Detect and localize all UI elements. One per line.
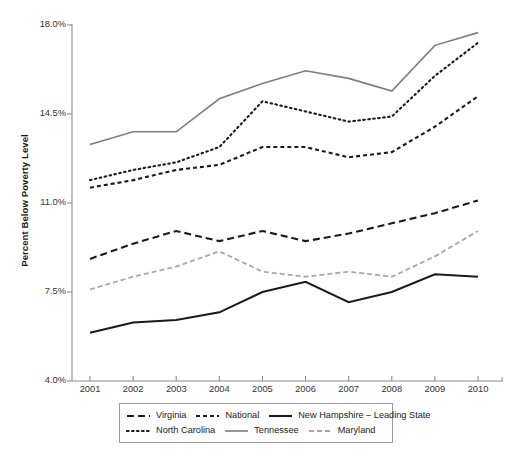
- legend-row-2: North CarolinaTennesseeMaryland: [125, 423, 387, 438]
- x-axis-tick-label: 2004: [197, 384, 241, 394]
- legend-line-swatch: [195, 411, 220, 421]
- series-line-virginia: [90, 200, 478, 258]
- x-axis-tick-label: 2005: [240, 384, 284, 394]
- series-line-tennessee: [90, 33, 478, 145]
- x-axis-tick-label: 2002: [111, 384, 155, 394]
- plot-area: [0, 0, 511, 400]
- x-axis-tick-label: 2007: [327, 384, 371, 394]
- legend-item: Maryland: [308, 425, 376, 436]
- x-axis-tick-label: 2010: [456, 384, 500, 394]
- series-line-new-hampshire-leading-state: [90, 274, 478, 332]
- series-line-national: [90, 96, 478, 188]
- legend-label: North Carolina: [156, 425, 215, 436]
- legend-line-swatch: [268, 411, 293, 421]
- series-lines: [90, 33, 478, 333]
- legend-row-1: VirginiaNationalNew Hampshire – Leading …: [125, 408, 387, 423]
- x-axis-tick-label: 2008: [370, 384, 414, 394]
- legend-label: National: [225, 410, 259, 421]
- legend-line-swatch: [126, 426, 151, 436]
- legend-item: Virginia: [126, 410, 186, 421]
- legend-item: Tennessee: [224, 425, 298, 436]
- x-axis-tick-label: 2009: [413, 384, 457, 394]
- legend-item: National: [195, 410, 259, 421]
- legend-line-swatch: [224, 426, 249, 436]
- legend-label: Tennessee: [254, 425, 298, 436]
- legend-label: Maryland: [338, 425, 376, 436]
- x-axis-tick-label: 2006: [284, 384, 328, 394]
- legend-line-swatch: [308, 426, 333, 436]
- poverty-level-line-chart: Percent Below Poverty Level 18.0%14.5%11…: [0, 0, 511, 458]
- x-axis-tick-label: 2003: [154, 384, 198, 394]
- legend-item: New Hampshire – Leading State: [268, 410, 430, 421]
- chart-legend: VirginiaNationalNew Hampshire – Leading …: [119, 403, 393, 443]
- x-axis-tick-label: 2001: [68, 384, 112, 394]
- legend-label: Virginia: [156, 410, 186, 421]
- series-line-north-carolina: [90, 43, 478, 180]
- legend-label: New Hampshire – Leading State: [298, 410, 430, 421]
- x-axis-tick-labels: 2001200220032004200520062007200820092010: [0, 384, 511, 400]
- legend-item: North Carolina: [126, 425, 215, 436]
- legend-line-swatch: [126, 411, 151, 421]
